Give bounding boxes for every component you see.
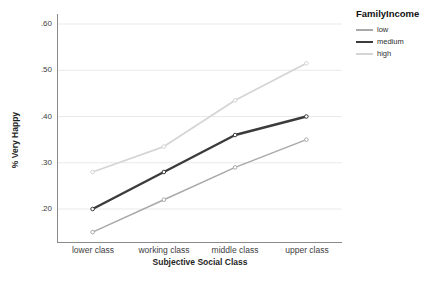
y-tick-label: .30	[22, 159, 52, 167]
data-point-high	[162, 145, 166, 149]
data-point-medium	[233, 133, 237, 137]
data-point-high	[305, 62, 309, 66]
y-tick-label: .40	[22, 113, 52, 121]
data-point-high	[233, 99, 237, 103]
data-point-low	[233, 166, 237, 170]
y-axis-title: % Very Happy	[10, 88, 22, 192]
legend-item-high: high	[356, 50, 426, 58]
data-point-medium	[162, 170, 166, 174]
legend-label: high	[377, 50, 391, 58]
line-chart-figure: .60 .50 .40 .30 .20 lower class working …	[0, 0, 427, 288]
data-point-medium	[91, 207, 95, 211]
legend-label: medium	[377, 38, 404, 46]
series-line-high	[93, 63, 307, 172]
data-point-low	[305, 138, 309, 142]
y-tick-label: .20	[22, 205, 52, 213]
legend-label: low	[377, 26, 388, 34]
legend-title: FamilyIncome	[356, 8, 426, 19]
data-point-low	[162, 198, 166, 202]
data-point-medium	[305, 115, 309, 119]
legend-item-medium: medium	[356, 38, 426, 46]
low-line-swatch-icon	[356, 29, 373, 31]
high-line-swatch-icon	[356, 53, 373, 55]
legend: FamilyIncome low medium high	[356, 8, 426, 62]
data-point-high	[91, 170, 95, 174]
data-point-low	[91, 230, 95, 234]
legend-item-low: low	[356, 26, 426, 34]
x-tick-label: upper class	[265, 245, 349, 255]
y-tick-label: .50	[22, 66, 52, 74]
y-tick-label: .60	[22, 20, 52, 28]
x-axis-title: Subjective Social Class	[100, 257, 300, 267]
medium-line-swatch-icon	[356, 41, 373, 43]
